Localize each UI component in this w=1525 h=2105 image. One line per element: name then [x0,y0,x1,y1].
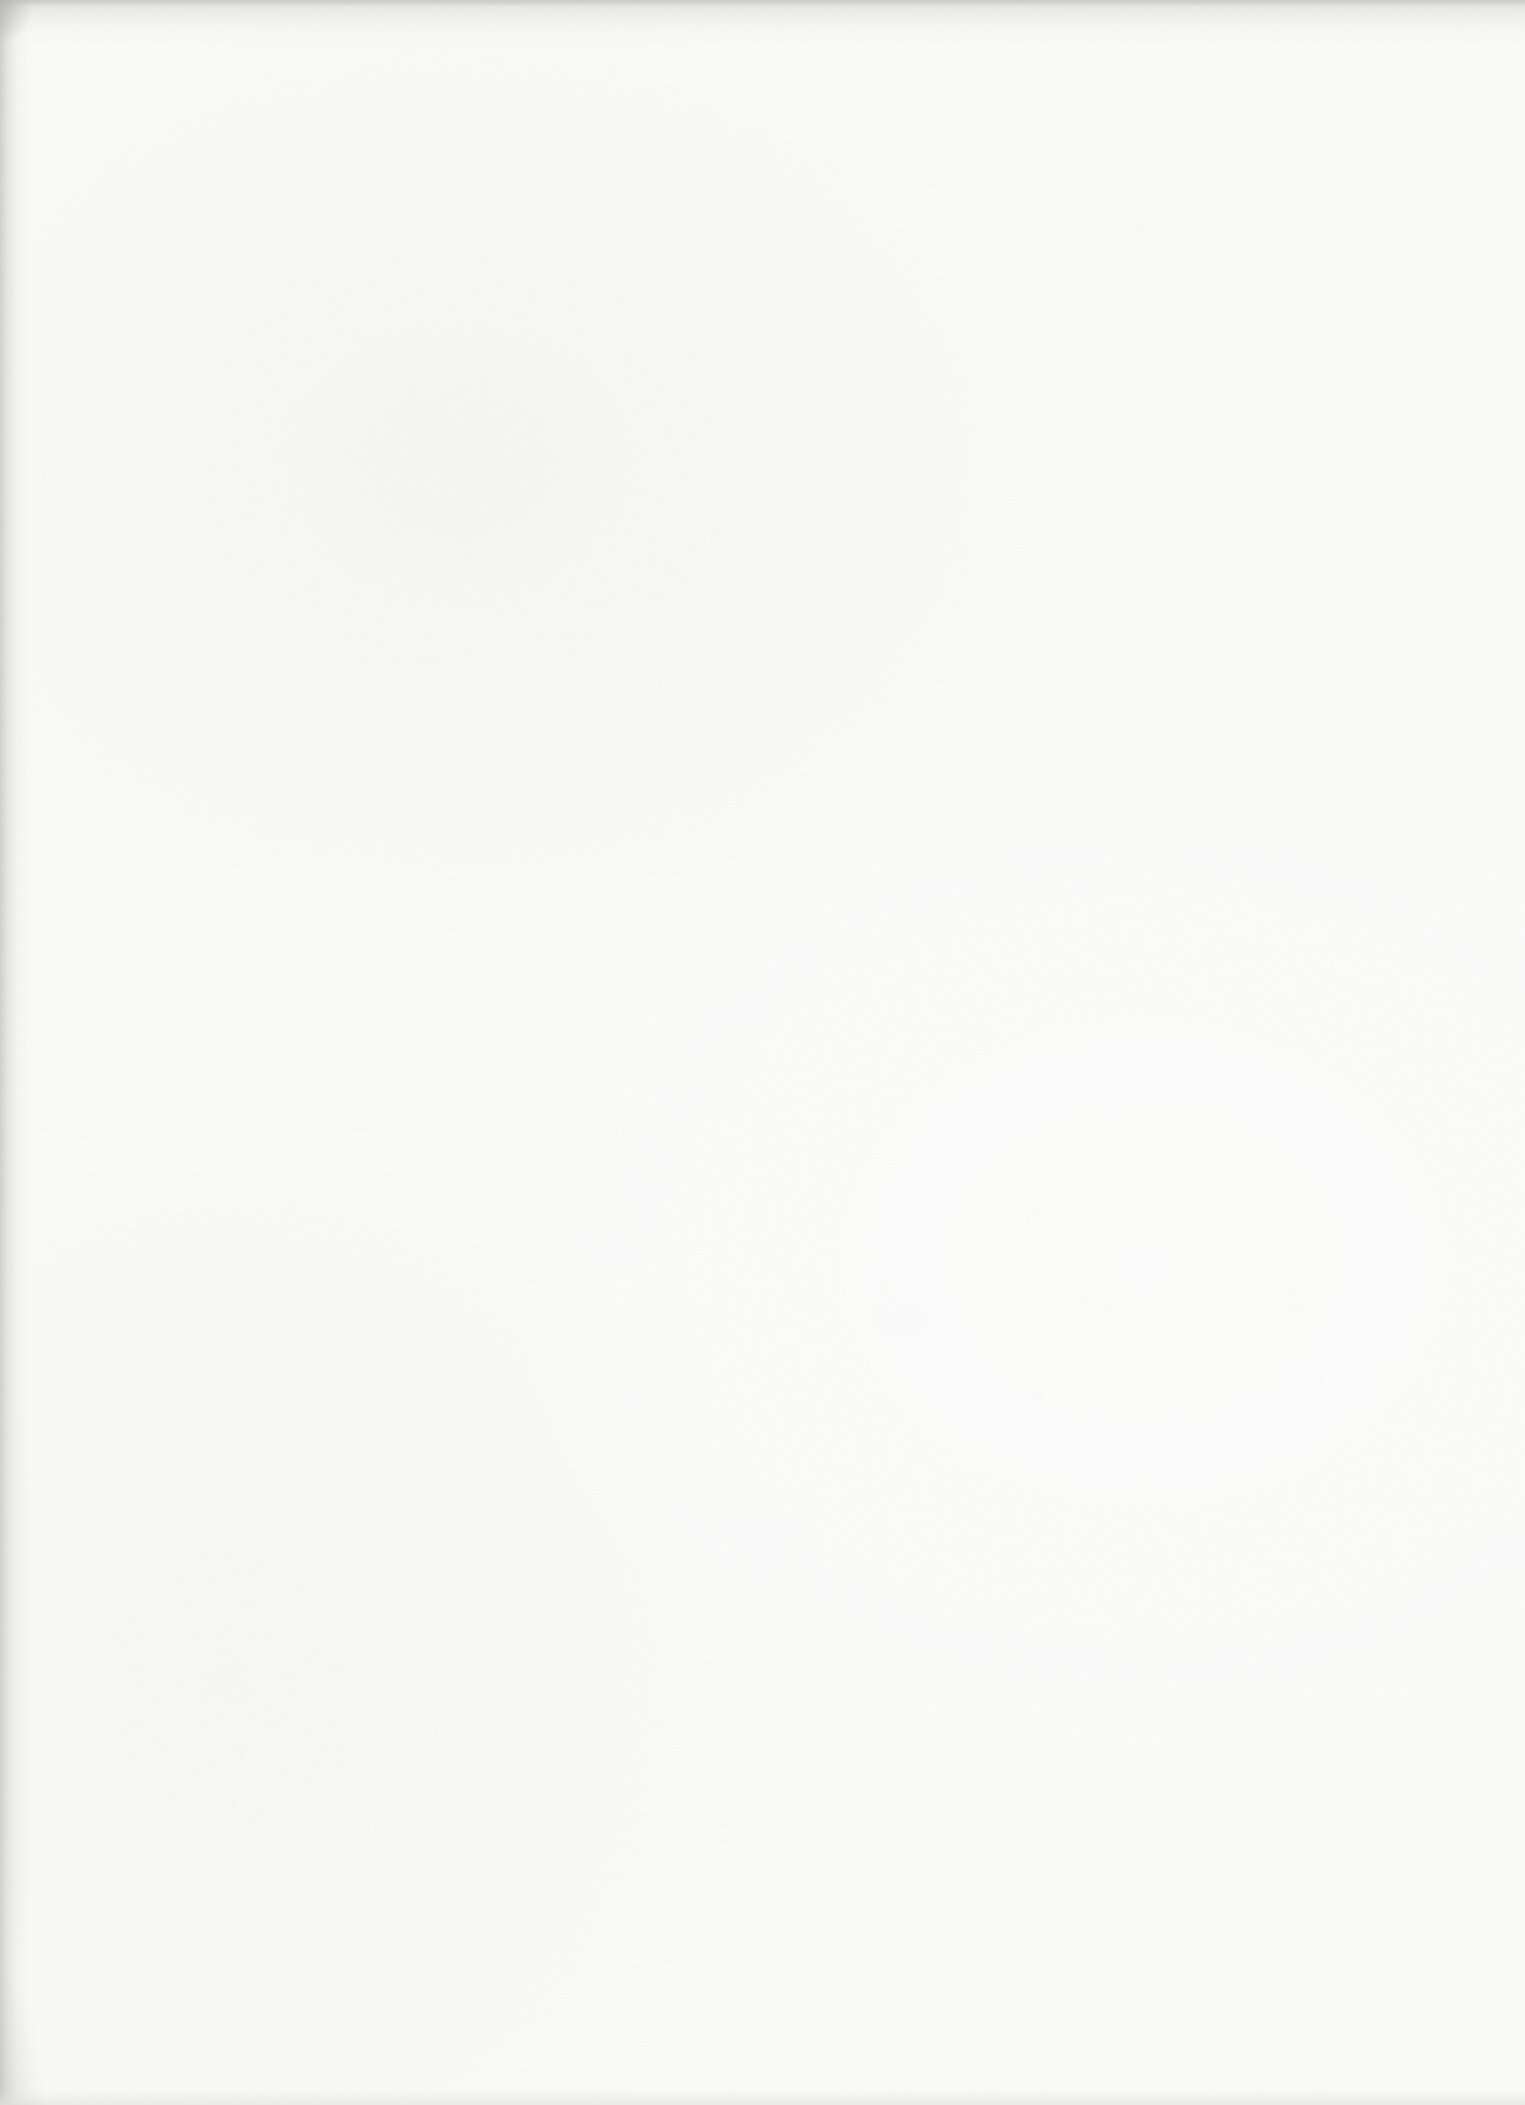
paper-grain-texture [0,0,1525,2105]
scanned-blank-page [0,0,1525,2105]
scan-top-left-corner-shadow [0,0,34,44]
paper-mottle-layer [0,0,1525,2105]
scan-bottom-left-corner-shadow [0,1975,46,2105]
scan-left-edge-shadow [0,0,30,2105]
scan-top-edge-shadow [0,0,1525,52]
paper-noise-layer [0,0,1525,2105]
scan-bottom-edge-shadow [0,2089,1525,2105]
scan-top-edge-line [0,0,1525,7]
